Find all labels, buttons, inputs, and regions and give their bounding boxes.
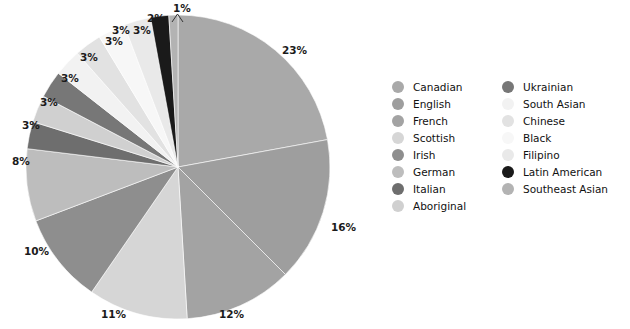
legend-item-aboriginal[interactable]: Aboriginal [392, 197, 502, 214]
legend-item-label: French [413, 115, 448, 127]
legend-swatch-icon [392, 166, 404, 178]
legend-item-label: German [413, 166, 455, 178]
slice-label-filipino: 3% [112, 24, 130, 36]
legend-swatch-icon [392, 200, 404, 212]
legend-item-canadian[interactable]: Canadian [392, 78, 502, 95]
legend-swatch-icon [502, 166, 514, 178]
legend-item-label: English [413, 98, 451, 110]
slice-label-black: 3% [133, 24, 151, 36]
slice-label-latin-american: 2% [147, 12, 165, 24]
slice-label-chinese: 3% [105, 35, 123, 47]
slice-label-southeast-asian: 1% [173, 2, 191, 14]
legend-column-right: UkrainianSouth AsianChineseBlackFilipino… [502, 78, 630, 218]
legend-item-label: Irish [413, 149, 435, 161]
chart-area: 23% 16% 12% 11% 10% 8% 3% 3% 3% 3% 3% 3%… [0, 0, 380, 329]
legend-item-ukrainian[interactable]: Ukrainian [502, 78, 630, 95]
legend-item-italian[interactable]: Italian [392, 180, 502, 197]
legend: CanadianEnglishFrenchScottishIrishGerman… [392, 78, 630, 218]
legend-swatch-icon [502, 81, 514, 93]
legend-item-label: Scottish [413, 132, 455, 144]
slice-label-aboriginal: 3% [40, 96, 58, 108]
legend-item-southeast-asian[interactable]: Southeast Asian [502, 180, 630, 197]
legend-item-label: Canadian [413, 81, 463, 93]
legend-swatch-icon [392, 81, 404, 93]
legend-swatch-icon [502, 115, 514, 127]
legend-item-label: Filipino [523, 149, 560, 161]
legend-item-chinese[interactable]: Chinese [502, 112, 630, 129]
slice-label-french: 12% [219, 308, 244, 320]
slice-label-canadian: 23% [282, 44, 307, 56]
legend-item-label: Black [523, 132, 551, 144]
slice-label-english: 16% [331, 221, 356, 233]
slice-label-italian: 3% [22, 119, 40, 131]
legend-item-filipino[interactable]: Filipino [502, 146, 630, 163]
legend-item-german[interactable]: German [392, 163, 502, 180]
legend-item-label: Ukrainian [523, 81, 573, 93]
legend-item-english[interactable]: English [392, 95, 502, 112]
legend-swatch-icon [502, 183, 514, 195]
legend-swatch-icon [392, 132, 404, 144]
legend-item-label: South Asian [523, 98, 586, 110]
legend-swatch-icon [392, 98, 404, 110]
pie-slices-group [26, 15, 330, 319]
legend-item-label: Southeast Asian [523, 183, 608, 195]
legend-item-irish[interactable]: Irish [392, 146, 502, 163]
slice-label-german: 8% [12, 155, 30, 167]
legend-item-south-asian[interactable]: South Asian [502, 95, 630, 112]
legend-swatch-icon [502, 149, 514, 161]
slice-label-irish: 10% [24, 245, 49, 257]
legend-item-label: Latin American [523, 166, 602, 178]
legend-item-label: Aboriginal [413, 200, 466, 212]
legend-swatch-icon [392, 183, 404, 195]
slice-label-south-asian: 3% [80, 51, 98, 63]
slice-label-scottish: 11% [101, 308, 126, 320]
legend-swatch-icon [502, 132, 514, 144]
legend-item-scottish[interactable]: Scottish [392, 129, 502, 146]
slice-label-ukrainian: 3% [61, 72, 79, 84]
legend-column-left: CanadianEnglishFrenchScottishIrishGerman… [392, 78, 502, 218]
legend-swatch-icon [392, 115, 404, 127]
pie-chart-figure: 23% 16% 12% 11% 10% 8% 3% 3% 3% 3% 3% 3%… [0, 0, 630, 329]
legend-swatch-icon [392, 149, 404, 161]
pie-chart-svg [0, 0, 380, 329]
legend-swatch-icon [502, 98, 514, 110]
legend-item-label: Chinese [523, 115, 565, 127]
legend-item-label: Italian [413, 183, 446, 195]
legend-item-black[interactable]: Black [502, 129, 630, 146]
legend-item-latin-american[interactable]: Latin American [502, 163, 630, 180]
legend-item-french[interactable]: French [392, 112, 502, 129]
